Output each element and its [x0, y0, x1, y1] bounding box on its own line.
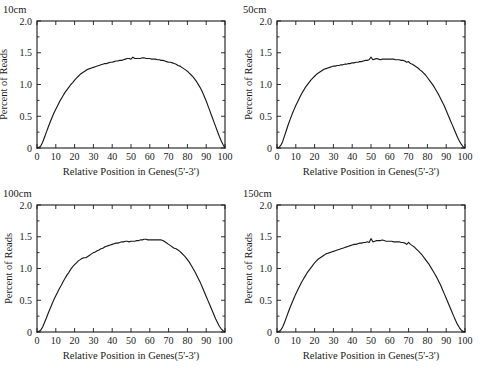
chart-panel: 100cm010203040506070809010000.51.01.52.0… [0, 184, 240, 368]
y-axis-title: Percent of Reads [243, 49, 254, 120]
panel-title: 50cm [243, 4, 266, 15]
y-axis-tick-label: 1.0 [20, 263, 33, 274]
y-axis-title: Percent of Reads [0, 49, 9, 120]
x-axis-tick-label: 90 [441, 335, 451, 346]
coverage-curve [37, 57, 225, 148]
x-axis-tick-label: 10 [51, 151, 61, 162]
x-axis-tick-label: 20 [310, 335, 320, 346]
y-axis-tick-label: 1.5 [20, 47, 33, 58]
x-axis-tick-label: 30 [88, 335, 98, 346]
x-axis-tick-label: 70 [164, 335, 174, 346]
plot-frame [277, 21, 465, 148]
x-axis-tick-label: 80 [182, 151, 192, 162]
x-axis-title: Relative Position in Genes(5'-3') [63, 350, 200, 362]
y-axis-title: Percent of Reads [3, 233, 14, 304]
x-axis-tick-label: 0 [275, 335, 280, 346]
y-axis-tick-label: 0.5 [20, 295, 33, 306]
y-axis-tick-label: 1.5 [260, 231, 273, 242]
x-axis-tick-label: 10 [291, 151, 301, 162]
x-axis-tick-label: 60 [385, 335, 395, 346]
y-axis-tick-label: 0 [27, 327, 32, 338]
x-axis-title: Relative Position in Genes(5'-3') [303, 166, 440, 178]
x-axis-tick-label: 60 [145, 335, 155, 346]
chart-panel: 150cm010203040506070809010000.51.01.52.0… [240, 184, 480, 368]
x-axis-tick-label: 20 [70, 335, 80, 346]
x-axis-tick-label: 100 [218, 151, 233, 162]
y-axis-tick-label: 0 [267, 143, 272, 154]
y-axis-title: Percent of Reads [243, 233, 254, 304]
x-axis-tick-label: 50 [126, 151, 136, 162]
x-axis-title: Relative Position in Genes(5'-3') [303, 350, 440, 362]
y-axis-tick-label: 2.0 [260, 200, 273, 211]
y-axis-tick-label: 0.5 [20, 111, 33, 122]
x-axis-tick-label: 70 [404, 151, 414, 162]
coverage-curve [277, 57, 465, 148]
x-axis-tick-label: 30 [328, 151, 338, 162]
plot-frame [37, 205, 225, 332]
y-axis-tick-label: 0.5 [260, 111, 273, 122]
x-axis-tick-label: 20 [70, 151, 80, 162]
x-axis-tick-label: 90 [201, 151, 211, 162]
x-axis-tick-label: 0 [35, 151, 40, 162]
plot-frame [277, 205, 465, 332]
y-axis-tick-label: 1.0 [260, 79, 273, 90]
x-axis-tick-label: 50 [126, 335, 136, 346]
chart-panel: 10cm010203040506070809010000.51.01.52.0P… [0, 0, 240, 184]
x-axis-tick-label: 30 [88, 151, 98, 162]
x-axis-title: Relative Position in Genes(5'-3') [63, 166, 200, 178]
x-axis-tick-label: 10 [51, 335, 61, 346]
y-axis-tick-label: 1.0 [20, 79, 33, 90]
x-axis-tick-label: 20 [310, 151, 320, 162]
coverage-curve [277, 239, 465, 332]
y-axis-tick-label: 2.0 [20, 16, 33, 27]
x-axis-tick-label: 40 [347, 151, 357, 162]
panel-title: 100cm [3, 188, 32, 199]
chart-canvas: 10cm010203040506070809010000.51.01.52.0P… [0, 0, 240, 184]
x-axis-tick-label: 30 [328, 335, 338, 346]
x-axis-tick-label: 0 [275, 151, 280, 162]
x-axis-tick-label: 70 [404, 335, 414, 346]
y-axis-tick-label: 0.5 [260, 295, 273, 306]
y-axis-tick-label: 1.0 [260, 263, 273, 274]
y-axis-tick-label: 2.0 [260, 16, 273, 27]
x-axis-tick-label: 10 [291, 335, 301, 346]
x-axis-tick-label: 100 [458, 335, 473, 346]
gene-body-coverage-figure: 10cm010203040506070809010000.51.01.52.0P… [0, 0, 481, 368]
x-axis-tick-label: 70 [164, 151, 174, 162]
x-axis-tick-label: 40 [347, 335, 357, 346]
x-axis-tick-label: 80 [422, 151, 432, 162]
plot-frame [37, 21, 225, 148]
coverage-curve [37, 239, 225, 332]
chart-panel: 50cm010203040506070809010000.51.01.52.0P… [240, 0, 480, 184]
chart-canvas: 150cm010203040506070809010000.51.01.52.0… [240, 184, 480, 368]
x-axis-tick-label: 90 [441, 151, 451, 162]
x-axis-tick-label: 50 [366, 335, 376, 346]
x-axis-tick-label: 50 [366, 151, 376, 162]
x-axis-tick-label: 40 [107, 151, 117, 162]
x-axis-tick-label: 40 [107, 335, 117, 346]
panel-title: 10cm [3, 4, 26, 15]
x-axis-tick-label: 100 [458, 151, 473, 162]
x-axis-tick-label: 80 [182, 335, 192, 346]
x-axis-tick-label: 90 [201, 335, 211, 346]
x-axis-tick-label: 80 [422, 335, 432, 346]
y-axis-tick-label: 1.5 [20, 231, 33, 242]
y-axis-tick-label: 2.0 [20, 200, 33, 211]
y-axis-tick-label: 1.5 [260, 47, 273, 58]
x-axis-tick-label: 100 [218, 335, 233, 346]
x-axis-tick-label: 60 [385, 151, 395, 162]
x-axis-tick-label: 0 [35, 335, 40, 346]
y-axis-tick-label: 0 [267, 327, 272, 338]
chart-canvas: 100cm010203040506070809010000.51.01.52.0… [0, 184, 240, 368]
chart-canvas: 50cm010203040506070809010000.51.01.52.0P… [240, 0, 480, 184]
x-axis-tick-label: 60 [145, 151, 155, 162]
panel-title: 150cm [243, 188, 272, 199]
y-axis-tick-label: 0 [27, 143, 32, 154]
